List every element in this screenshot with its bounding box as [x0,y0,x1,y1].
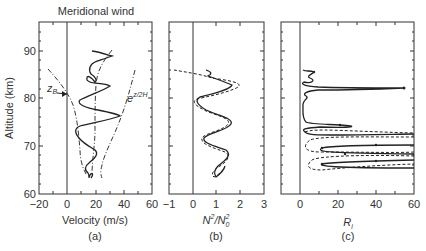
y-tick-80: 80 [24,92,36,104]
panel-a-x-tick: 60 [146,198,158,210]
panel-c-caption: (c) [342,230,355,242]
panel-b-solid [197,70,232,177]
panel-c-x-tick: 60 [408,198,420,210]
y-axis-label: Altitude (km) [3,77,15,139]
y-tick-90: 90 [24,45,36,57]
panel-b: −1 0 1 2 3 N2/N20 (b) [163,22,267,242]
panel-b-caption: (b) [209,230,222,242]
panel-a-x-tick: −20 [30,198,49,210]
panel-a-caption: (a) [88,230,101,242]
panel-b-x-tick: 3 [261,198,267,210]
figure: Meridional wind Altitude (km) 60 70 80 9… [0,0,426,251]
y-tick-70: 70 [24,140,36,152]
panel-a-x-tick: 0 [64,198,70,210]
zb-label: zB [46,82,58,95]
panel-c: 0 20 40 60 Ri (c) [281,22,420,242]
panel-c-xlabel: Ri [343,216,353,230]
panel-a: zB ez/2H −20 0 20 40 60 Velocity (m/s) (… [30,22,158,242]
panel-a-xlabel: Velocity (m/s) [62,214,128,226]
panel-c-x-tick: 0 [297,198,303,210]
panel-b-x-tick: 0 [190,198,196,210]
panel-a-x-tick: 20 [90,198,102,210]
panel-c-solid [303,70,414,168]
panel-b-dashed [174,70,239,177]
panel-b-x-tick: 1 [213,198,219,210]
panel-c-x-tick: 20 [332,198,344,210]
zb-arrowhead-icon [62,91,67,97]
panel-b-xlabel: N2/N20 [203,213,230,228]
panel-c-x-tick: 40 [370,198,382,210]
panel-a-measured-wind [76,51,120,178]
panel-b-x-tick: −1 [163,198,176,210]
exp-label: ez/2H [127,91,148,104]
panel-a-envelope-right [101,70,135,178]
figure-title: Meridional wind [58,5,134,17]
panel-b-x-tick: 2 [237,198,243,210]
panel-a-x-tick: 40 [118,198,130,210]
